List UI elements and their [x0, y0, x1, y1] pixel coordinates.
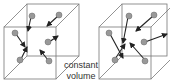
right-cube: [99, 4, 170, 79]
caption-constant: constant: [60, 60, 102, 70]
caption-volume: volume: [60, 71, 102, 81]
